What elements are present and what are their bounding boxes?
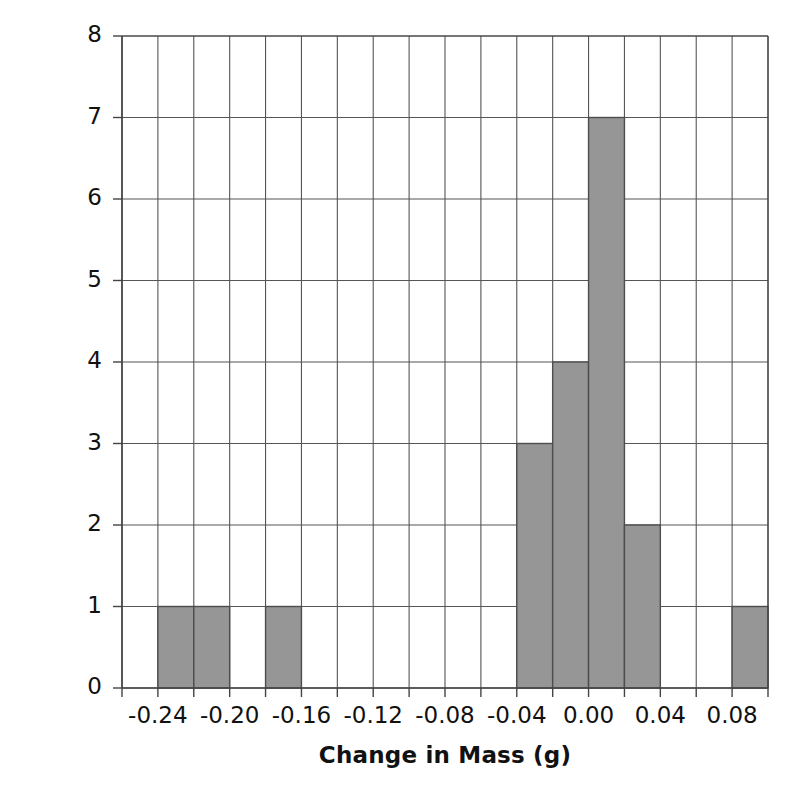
y-tick-label: 0 (62, 673, 102, 699)
y-tick-label: 4 (62, 347, 102, 373)
y-tick-label: 7 (62, 103, 102, 129)
y-axis-title: Count (0, 230, 1, 390)
y-tick-label: 6 (62, 184, 102, 210)
histogram-bars (158, 118, 768, 689)
y-tick-label: 3 (62, 429, 102, 455)
x-axis-title: Change in Mass (g) (122, 742, 768, 768)
y-tick-label: 1 (62, 592, 102, 618)
x-tick-label: 0.08 (687, 702, 777, 728)
y-tick-label: 8 (62, 21, 102, 47)
y-tick-label: 2 (62, 510, 102, 536)
histogram-figure: Count Change in Mass (g) 012345678 -0.24… (0, 0, 792, 807)
axis-ticks (113, 36, 768, 697)
plot-area (0, 0, 792, 807)
y-tick-label: 5 (62, 266, 102, 292)
